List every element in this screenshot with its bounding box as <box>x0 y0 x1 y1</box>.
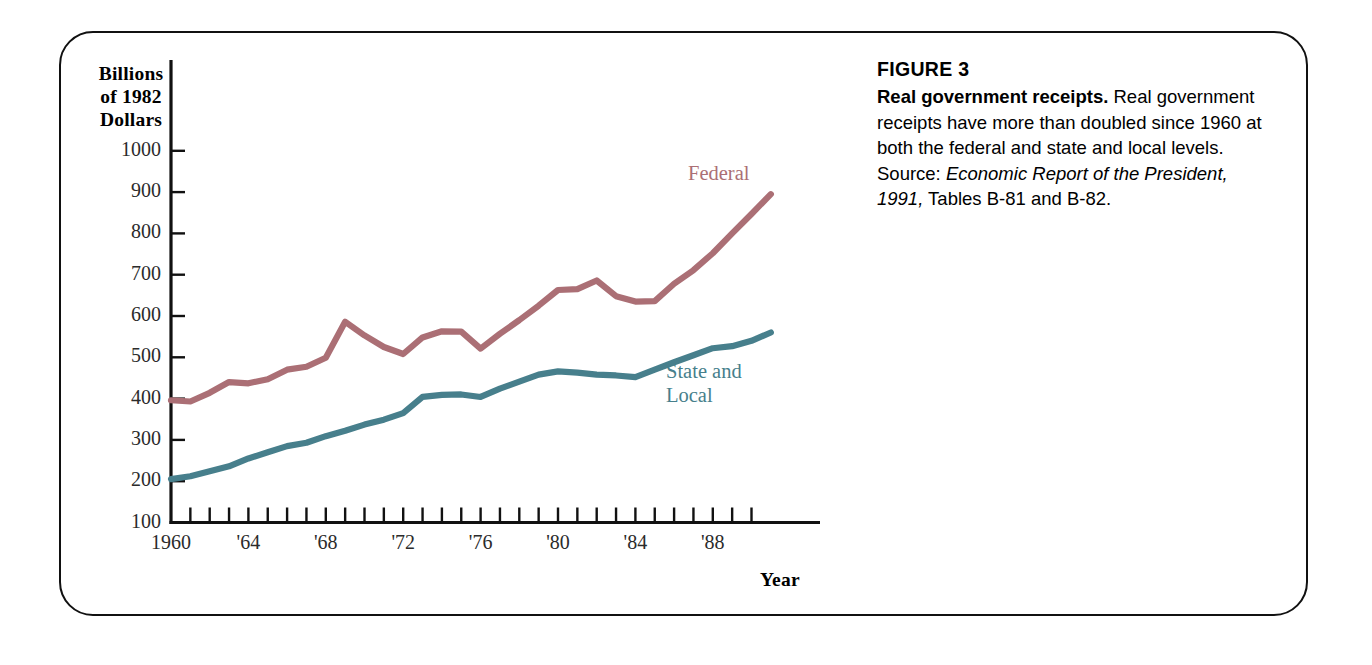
x-tick-label: '64 <box>218 531 278 554</box>
y-tick-label: 600 <box>99 303 161 326</box>
caption-figure-number: FIGURE 3 <box>877 58 1277 81</box>
y-tick-label: 700 <box>99 262 161 285</box>
caption-body: Real government receipts. Real governmen… <box>877 84 1277 212</box>
x-tick-marks <box>190 508 751 523</box>
x-tick-label: '80 <box>528 531 588 554</box>
series-label-state-local: State and Local <box>666 359 742 407</box>
y-tick-label: 400 <box>99 386 161 409</box>
series-label-federal: Federal <box>688 161 749 185</box>
y-tick-label: 300 <box>99 427 161 450</box>
caption-source-suffix: Tables B-81 and B-82. <box>923 188 1111 209</box>
y-tick-label: 100 <box>99 510 161 533</box>
x-tick-label: '68 <box>296 531 356 554</box>
caption-source-prefix: Source: <box>877 163 946 184</box>
chart-plot-area: Billions of 1982 Dollars Year 1000900800… <box>0 0 860 665</box>
y-axis-title: Billions of 1982 Dollars <box>88 62 174 131</box>
y-tick-marks <box>171 151 185 481</box>
y-tick-label: 200 <box>99 468 161 491</box>
x-tick-label: 1960 <box>141 531 201 554</box>
caption-title: Real government receipts. <box>877 86 1108 107</box>
y-tick-label: 1000 <box>99 138 161 161</box>
figure-root: Billions of 1982 Dollars Year 1000900800… <box>0 0 1372 665</box>
y-tick-label: 500 <box>99 344 161 367</box>
x-axis-title: Year <box>760 568 800 591</box>
y-tick-label: 900 <box>99 179 161 202</box>
x-tick-label: '84 <box>605 531 665 554</box>
y-tick-label: 800 <box>99 220 161 243</box>
x-tick-label: '72 <box>373 531 433 554</box>
x-tick-label: '88 <box>683 531 743 554</box>
x-tick-label: '76 <box>451 531 511 554</box>
figure-caption: FIGURE 3 Real government receipts. Real … <box>877 58 1277 212</box>
